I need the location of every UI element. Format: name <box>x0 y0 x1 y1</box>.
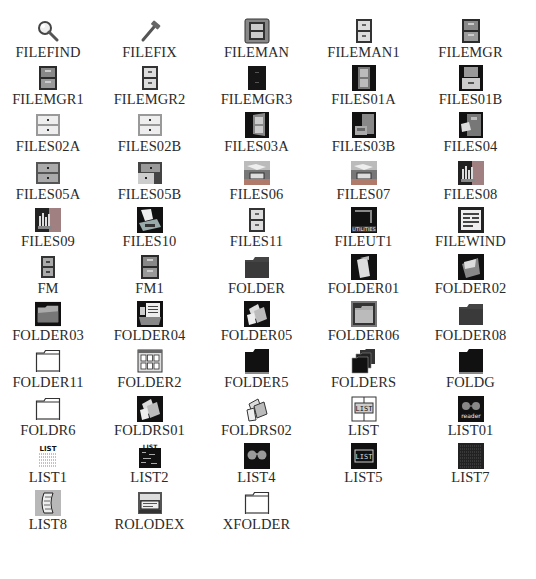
icon-item-filefix[interactable]: FILEFIX <box>96 18 203 65</box>
cabinet-angled-icon <box>244 112 270 138</box>
icon-label: FILES03B <box>332 139 396 154</box>
folder-open-black-icon <box>458 254 484 280</box>
icon-item-folder05[interactable]: FOLDER05 <box>203 301 310 348</box>
icon-label: FOLDG <box>446 375 495 390</box>
icon-item-folders[interactable]: FOLDERS <box>310 348 417 395</box>
icon-label: FILEWIND <box>435 234 506 249</box>
icon-item-files01b[interactable]: FILES01B <box>417 65 524 112</box>
file-tray-icon <box>244 160 270 186</box>
icon-label: LIST4 <box>237 470 275 485</box>
icon-item-files06[interactable]: FILES06 <box>203 160 310 207</box>
icon-item-foldrs01[interactable]: FOLDRS01 <box>96 396 203 443</box>
icon-label: FILES09 <box>21 234 75 249</box>
icon-label: LIST1 <box>29 470 67 485</box>
folder-outline-icon <box>244 490 270 516</box>
folders-stack-black-icon <box>244 301 270 327</box>
icon-item-folder11[interactable]: FOLDER11 <box>0 348 96 395</box>
icon-item-folder2[interactable]: FOLDER2 <box>96 348 203 395</box>
framed-cabinet-icon <box>244 18 270 44</box>
icon-item-list5[interactable]: LIST LIST5 <box>310 443 417 490</box>
icon-item-list2[interactable]: LIST LIST2 <box>96 443 203 490</box>
icon-item-fileut1[interactable]: UTILITIES FILEUT1 <box>310 207 417 254</box>
folders-stack-black-icon <box>137 396 163 422</box>
icon-item-xfolder[interactable]: XFOLDER <box>203 490 310 537</box>
icon-item-files11[interactable]: FILES11 <box>203 207 310 254</box>
icon-item-list01[interactable]: reader LIST01 <box>417 396 524 443</box>
icon-item-list8[interactable]: LIST8 <box>0 490 96 537</box>
icon-item-files01a[interactable]: FILES01A <box>310 65 417 112</box>
icon-item-files09[interactable]: FILES09 <box>0 207 96 254</box>
icon-label: FOLDER <box>228 281 285 296</box>
folder-outline-icon <box>35 396 61 422</box>
cabinet-files-out-icon <box>458 112 484 138</box>
icon-item-folder04[interactable]: FOLDER04 <box>96 301 203 348</box>
icon-item-list4[interactable]: LIST4 <box>203 443 310 490</box>
icon-item-files02b[interactable]: FILES02B <box>96 112 203 159</box>
icon-item-foldr6[interactable]: FOLDR6 <box>0 396 96 443</box>
icon-item-foldg[interactable]: FOLDG <box>417 348 524 395</box>
icon-item-folder5[interactable]: FOLDER5 <box>203 348 310 395</box>
icon-label: FILES10 <box>123 234 177 249</box>
icon-item-fileman[interactable]: FILEMAN <box>203 18 310 65</box>
icon-item-folder02[interactable]: FOLDER02 <box>417 254 524 301</box>
icon-label: LIST <box>348 423 379 438</box>
icon-item-filemgr1[interactable]: FILEMGR1 <box>0 65 96 112</box>
cabinet-black-icon <box>244 65 270 91</box>
hammer-icon <box>137 18 163 44</box>
cabinet-open-drawer-icon <box>351 112 377 138</box>
icon-item-filewind[interactable]: FILEWIND <box>417 207 524 254</box>
icon-label: FILES06 <box>230 187 284 202</box>
icon-item-folder08[interactable]: FOLDER08 <box>417 301 524 348</box>
icon-item-files04[interactable]: FILES04 <box>417 112 524 159</box>
icon-item-files08[interactable]: FILES08 <box>417 160 524 207</box>
icon-item-foldrs02[interactable]: FOLDRS02 <box>203 396 310 443</box>
icon-item-files10[interactable]: FILES10 <box>96 207 203 254</box>
icon-item-files05a[interactable]: FILES05A <box>0 160 96 207</box>
icon-item-fm1[interactable]: FM1 <box>96 254 203 301</box>
icon-item-list1[interactable]: LIST LIST1 <box>0 443 96 490</box>
icon-item-filemgr[interactable]: FILEMGR <box>417 18 524 65</box>
icon-item-fm[interactable]: FM <box>0 254 96 301</box>
icon-item-rolodex[interactable]: ROLODEX <box>96 490 203 537</box>
icon-label: FILEFIND <box>15 45 80 60</box>
icon-item-files07[interactable]: FILES07 <box>310 160 417 207</box>
icon-label: FM <box>37 281 58 296</box>
icon-item-fileman1[interactable]: FILEMAN1 <box>310 18 417 65</box>
icon-item-folder03[interactable]: FOLDER03 <box>0 301 96 348</box>
icon-item-list7[interactable]: LIST7 <box>417 443 524 490</box>
icon-item-folder[interactable]: FOLDER <box>203 254 310 301</box>
list-dark-icon: LIST <box>137 443 163 469</box>
icon-label: FM1 <box>135 281 164 296</box>
icon-item-files05b[interactable]: FILES05B <box>96 160 203 207</box>
icon-item-filemgr2[interactable]: FILEMGR2 <box>96 65 203 112</box>
icon-label: FOLDER5 <box>224 375 288 390</box>
icon-item-files03b[interactable]: FILES03B <box>310 112 417 159</box>
icon-label: FILES01A <box>331 92 395 107</box>
icon-label: FILES08 <box>444 187 498 202</box>
folder-dark-icon <box>244 254 270 280</box>
icon-label: FOLDER04 <box>114 328 186 343</box>
icon-label: FILES02B <box>118 139 182 154</box>
list-scroll-icon <box>35 490 61 516</box>
icon-item-files03a[interactable]: FILES03A <box>203 112 310 159</box>
icon-label: FOLDER03 <box>12 328 84 343</box>
file-bars-icon <box>458 160 484 186</box>
icon-item-folder06[interactable]: FOLDER06 <box>310 301 417 348</box>
icon-label: LIST5 <box>344 470 382 485</box>
icon-item-filemgr3[interactable]: FILEMGR3 <box>203 65 310 112</box>
svg-text:LIST: LIST <box>40 445 57 453</box>
cabinet-dark-icon <box>35 65 61 91</box>
icon-item-list[interactable]: LIST LIST <box>310 396 417 443</box>
icon-item-files02a[interactable]: FILES02A <box>0 112 96 159</box>
icon-label: LIST8 <box>29 517 67 532</box>
icon-label: FILEMGR1 <box>12 92 84 107</box>
list-reader-icon: reader <box>458 396 484 422</box>
folder-dark-icon <box>458 301 484 327</box>
cabinet-open-black-icon <box>458 65 484 91</box>
icon-item-folder01[interactable]: FOLDER01 <box>310 254 417 301</box>
cabinet-dark-icon <box>458 18 484 44</box>
icon-item-filefind[interactable]: FILEFIND <box>0 18 96 65</box>
cabinet-light-icon <box>137 65 163 91</box>
icon-label: FOLDER02 <box>435 281 507 296</box>
utilities-icon: UTILITIES <box>351 207 377 233</box>
